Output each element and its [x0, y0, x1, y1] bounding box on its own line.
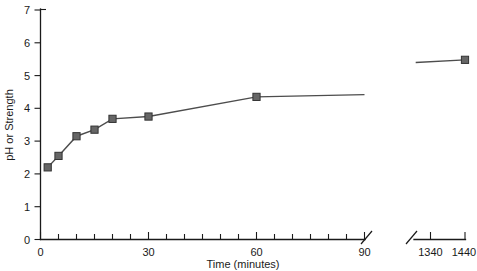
chart-svg: 0 1 2 3 4 5 6 7 pH or Strength [0, 0, 477, 271]
y-tick-label-1: 1 [24, 201, 30, 213]
x-major-ticks-right [431, 232, 466, 240]
x-minor-ticks-left [59, 234, 347, 240]
data-point-marker [73, 133, 80, 140]
x-tick-label-1440: 1440 [452, 246, 476, 258]
y-tick-labels: 0 1 2 3 4 5 6 7 [24, 4, 30, 246]
x-tick-label-90: 90 [358, 246, 370, 258]
data-point-marker [253, 93, 260, 100]
y-tick-label-5: 5 [24, 70, 30, 82]
series-line-segment-2 [416, 60, 465, 63]
axis-break-slash-left [361, 231, 372, 244]
axis-break-slash-right [406, 231, 417, 244]
data-point-marker [55, 152, 62, 159]
x-axis-left-segment: 0 30 60 90 [37, 232, 370, 258]
data-point-marker [109, 115, 116, 122]
x-tick-label-60: 60 [250, 246, 262, 258]
series-markers [44, 56, 469, 171]
x-tick-labels-left: 0 30 60 90 [37, 246, 370, 258]
x-axis-title: Time (minutes) [207, 258, 280, 270]
y-tick-label-7: 7 [24, 4, 30, 16]
chart-figure: 0 1 2 3 4 5 6 7 pH or Strength [0, 0, 477, 271]
y-tick-marks [35, 10, 41, 240]
data-point-marker [44, 164, 51, 171]
data-point-marker [91, 126, 98, 133]
y-axis-title: pH or Strength [3, 89, 15, 161]
axis-break-symbol [361, 231, 417, 244]
x-tick-label-0: 0 [37, 246, 43, 258]
data-point-marker [461, 56, 468, 63]
y-tick-label-0: 0 [24, 234, 30, 246]
y-tick-label-4: 4 [24, 102, 30, 114]
x-axis-right-segment: 1340 1440 [414, 232, 476, 258]
y-tick-label-2: 2 [24, 168, 30, 180]
x-tick-label-30: 30 [142, 246, 154, 258]
data-point-marker [145, 113, 152, 120]
x-tick-label-1340: 1340 [418, 246, 442, 258]
data-series-group [44, 56, 469, 171]
x-tick-labels-right: 1340 1440 [418, 246, 476, 258]
y-axis: 0 1 2 3 4 5 6 7 pH or Strength [3, 4, 46, 246]
y-tick-label-3: 3 [24, 135, 30, 147]
y-tick-label-6: 6 [24, 37, 30, 49]
